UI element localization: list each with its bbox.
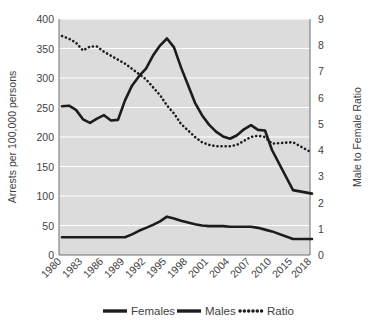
y-tick-label: 100 xyxy=(36,190,54,202)
y2-tick-label: 5 xyxy=(318,118,324,130)
y2-tick-label: 8 xyxy=(318,39,324,51)
chart-container: 400 350 300 250 200 150 100 50 0 9 8 7 6… xyxy=(0,0,377,328)
y2-tick-label: 0 xyxy=(318,249,324,261)
y-tick-label: 350 xyxy=(36,43,54,55)
y-axis-left-title: Arrests per 100,000 persons xyxy=(6,71,18,204)
y-axis-right-title: Male to Female Ratio xyxy=(351,87,363,187)
line-chart: 400 350 300 250 200 150 100 50 0 9 8 7 6… xyxy=(0,0,377,328)
y2-tick-label: 9 xyxy=(318,13,324,25)
y-tick-label: 200 xyxy=(36,131,54,143)
y2-tick-label: 6 xyxy=(318,92,324,104)
legend-label-males: Males xyxy=(205,305,236,317)
legend-label-ratio: Ratio xyxy=(267,305,294,317)
y2-tick-label: 2 xyxy=(318,197,324,209)
y-tick-label: 150 xyxy=(36,161,54,173)
y2-tick-label: 1 xyxy=(318,223,324,235)
y2-tick-label: 4 xyxy=(318,144,324,156)
y2-tick-label: 7 xyxy=(318,65,324,77)
y2-tick-label: 3 xyxy=(318,170,324,182)
y-tick-label: 50 xyxy=(42,220,54,232)
y-tick-label: 300 xyxy=(36,72,54,84)
y-tick-label: 250 xyxy=(36,102,54,114)
y-tick-label: 400 xyxy=(36,13,54,25)
legend-label-females: Females xyxy=(131,305,175,317)
